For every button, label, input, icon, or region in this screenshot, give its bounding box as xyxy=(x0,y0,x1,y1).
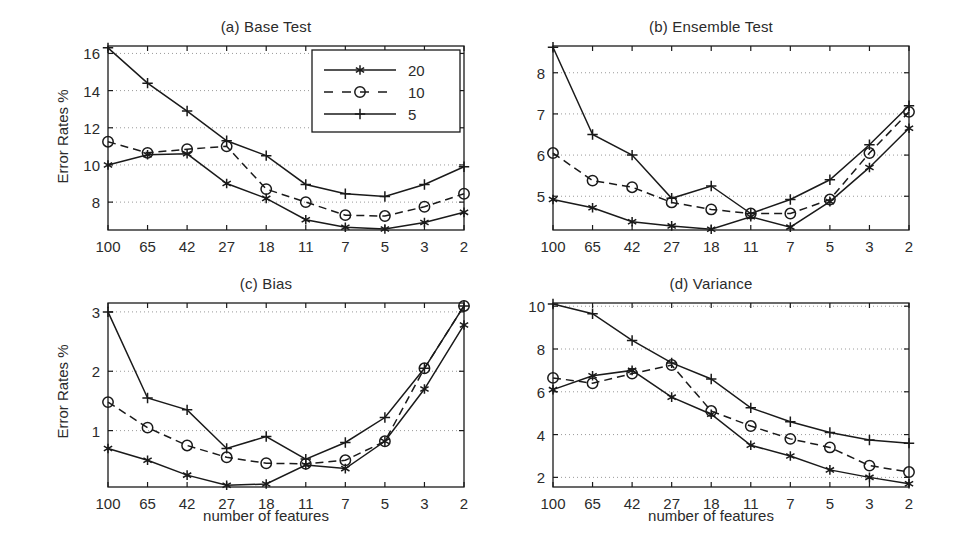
xtick-label: 5 xyxy=(381,238,389,255)
series-10 xyxy=(548,360,914,477)
panel-b-plot: 567810065422718117532 xyxy=(505,18,917,270)
xtick-label: 65 xyxy=(139,238,156,255)
series-5 xyxy=(548,42,914,219)
plot-frame xyxy=(553,303,909,487)
data-point-5-7 xyxy=(340,437,350,447)
data-point-20-27 xyxy=(668,392,676,402)
panel-c-bias: (c) Bias Error Rates % 12310065422718117… xyxy=(60,275,472,547)
panel-c-plot: 12310065422718117532 xyxy=(60,275,472,527)
xtick-label: 65 xyxy=(584,238,601,255)
plot-area: 24681010065422718117532 xyxy=(528,298,914,512)
series-20 xyxy=(549,366,913,489)
series-line-5 xyxy=(108,306,464,459)
ytick-label: 12 xyxy=(83,120,100,137)
data-point-5-2 xyxy=(459,162,469,172)
data-point-5-65 xyxy=(587,308,597,318)
data-point-5-100 xyxy=(548,299,558,309)
data-point-5-18 xyxy=(706,374,716,384)
ytick-label: 14 xyxy=(83,83,100,100)
xtick-label: 27 xyxy=(218,238,235,255)
data-point-5-5 xyxy=(380,191,390,201)
xtick-label: 42 xyxy=(624,238,641,255)
legend-label-5: 5 xyxy=(408,106,416,123)
ytick-label: 3 xyxy=(92,304,100,321)
panel-a-base-test: (a) Base Test Error Rates % 810121416100… xyxy=(60,18,472,270)
ytick-label: 2 xyxy=(537,469,545,486)
panel-c-xlabel: number of features xyxy=(60,507,472,524)
panel-b-ensemble-test: (b) Ensemble Test 567810065422718117532 xyxy=(505,18,917,270)
data-point-5-11 xyxy=(301,179,311,189)
series-line-20 xyxy=(108,154,464,229)
xtick-label: 5 xyxy=(826,238,834,255)
data-point-5-42 xyxy=(627,335,637,345)
data-point-5-7 xyxy=(785,417,795,427)
series-10 xyxy=(548,107,914,219)
ytick-label: 8 xyxy=(92,194,100,211)
ytick-label: 2 xyxy=(92,363,100,380)
legend-label-10: 10 xyxy=(408,84,425,101)
data-point-5-3 xyxy=(864,435,874,445)
data-point-5-18 xyxy=(261,431,271,441)
data-point-10-65 xyxy=(142,422,152,432)
xtick-label: 2 xyxy=(905,238,913,255)
data-point-5-100 xyxy=(103,307,113,317)
data-point-5-7 xyxy=(340,189,350,199)
xtick-label: 11 xyxy=(298,238,314,255)
data-point-20-65 xyxy=(143,456,151,466)
series-line-10 xyxy=(108,142,464,216)
data-point-5-100 xyxy=(548,42,558,52)
xtick-label: 100 xyxy=(540,238,565,255)
xtick-label: 11 xyxy=(743,238,759,255)
plot-area: 12310065422718117532 xyxy=(92,301,470,512)
series-line-5 xyxy=(553,47,909,213)
ytick-label: 10 xyxy=(528,298,545,315)
ytick-label: 16 xyxy=(83,45,100,62)
xtick-label: 18 xyxy=(258,238,275,255)
ytick-label: 10 xyxy=(83,157,100,174)
plot-frame xyxy=(553,46,909,230)
series-5 xyxy=(548,299,914,448)
ytick-label: 1 xyxy=(92,423,100,440)
data-point-20-27 xyxy=(223,179,231,189)
series-20 xyxy=(104,320,468,490)
legend-label-20: 20 xyxy=(408,62,425,79)
plot-area: 8101214161006542271811753220105 xyxy=(83,43,469,255)
legend: 20105 xyxy=(312,50,460,132)
data-point-20-7 xyxy=(786,451,794,461)
data-point-20-100 xyxy=(549,385,557,395)
data-point-10-11 xyxy=(301,197,311,207)
ytick-label: 8 xyxy=(537,341,545,358)
xtick-label: 100 xyxy=(95,238,120,255)
series-line-20 xyxy=(553,370,909,483)
panel-d-variance: (d) Variance 24681010065422718117532 num… xyxy=(505,275,917,547)
ytick-label: 8 xyxy=(537,65,545,82)
ytick-label: 7 xyxy=(537,106,545,123)
series-line-20 xyxy=(108,325,464,485)
xtick-label: 2 xyxy=(460,238,468,255)
plot-area: 567810065422718117532 xyxy=(537,42,915,255)
series-10 xyxy=(103,301,469,469)
data-point-20-18 xyxy=(707,409,715,419)
xtick-label: 7 xyxy=(341,238,349,255)
xtick-label: 3 xyxy=(865,238,873,255)
series-20 xyxy=(104,149,468,234)
data-point-10-42 xyxy=(182,440,192,450)
data-point-20-11 xyxy=(747,440,755,450)
panel-a-plot: 8101214161006542271811753220105 xyxy=(60,18,472,270)
data-point-5-3 xyxy=(419,179,429,189)
data-point-20-100 xyxy=(104,444,112,454)
ytick-label: 4 xyxy=(537,427,545,444)
series-line-20 xyxy=(553,128,909,229)
legend-box xyxy=(312,50,460,132)
xtick-label: 3 xyxy=(420,238,428,255)
panel-d-xlabel: number of features xyxy=(505,507,917,524)
figure-canvas: (a) Base Test Error Rates % 810121416100… xyxy=(0,0,953,549)
xtick-label: 42 xyxy=(179,238,196,255)
ytick-label: 5 xyxy=(537,188,545,205)
panel-d-plot: 24681010065422718117532 xyxy=(505,275,917,527)
data-point-5-18 xyxy=(261,150,271,160)
data-point-5-11 xyxy=(746,403,756,413)
xtick-label: 7 xyxy=(786,238,794,255)
data-point-5-65 xyxy=(587,129,597,139)
plot-frame xyxy=(108,303,464,487)
